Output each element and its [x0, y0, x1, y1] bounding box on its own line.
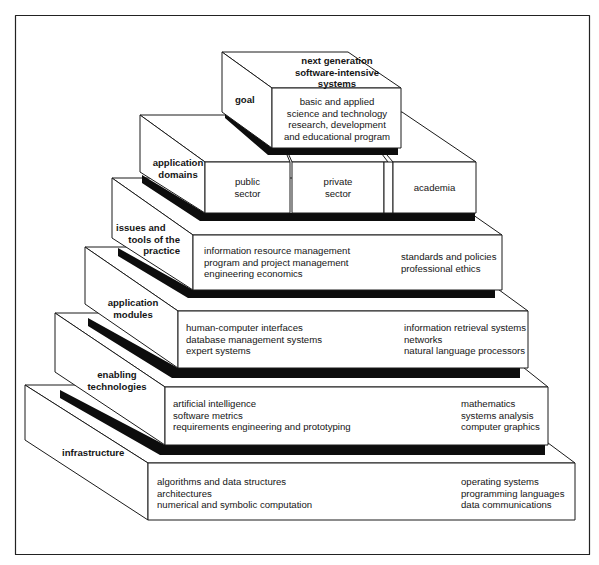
goal-top-label: next generation software-intensive syste…: [280, 55, 394, 90]
enabling-left-items: artificial intelligence software metrics…: [173, 398, 351, 433]
box-public-sector: public sector: [205, 176, 290, 199]
enabling-right-items: mathematics systems analysis computer gr…: [461, 398, 540, 433]
box-academia: academia: [393, 182, 476, 194]
infrastructure-right-items: operating systems programming languages …: [461, 476, 564, 511]
box-private-sector: private sector: [292, 176, 384, 199]
issues-left-items: information resource management program …: [204, 245, 350, 280]
goal-label: goal: [235, 94, 255, 106]
enabling-technologies-label: enabling technologies: [82, 369, 152, 392]
modules-left-items: human-computer interfaces database manag…: [186, 322, 322, 357]
issues-right-items: standards and policies professional ethi…: [401, 251, 496, 274]
layered-pyramid-diagram: next generation software-intensive syste…: [0, 0, 599, 565]
infrastructure-left-items: algorithms and data structures architect…: [157, 476, 312, 511]
issues-and-tools-label: issues and tools of the practice: [110, 222, 180, 257]
application-domains-label: application domains: [148, 157, 208, 180]
goal-front-items: basic and applied science and technology…: [274, 96, 400, 142]
application-modules-label: application modules: [100, 297, 166, 320]
modules-right-items: information retrieval systems networks n…: [404, 322, 526, 357]
infrastructure-label: infrastructure: [62, 447, 124, 459]
